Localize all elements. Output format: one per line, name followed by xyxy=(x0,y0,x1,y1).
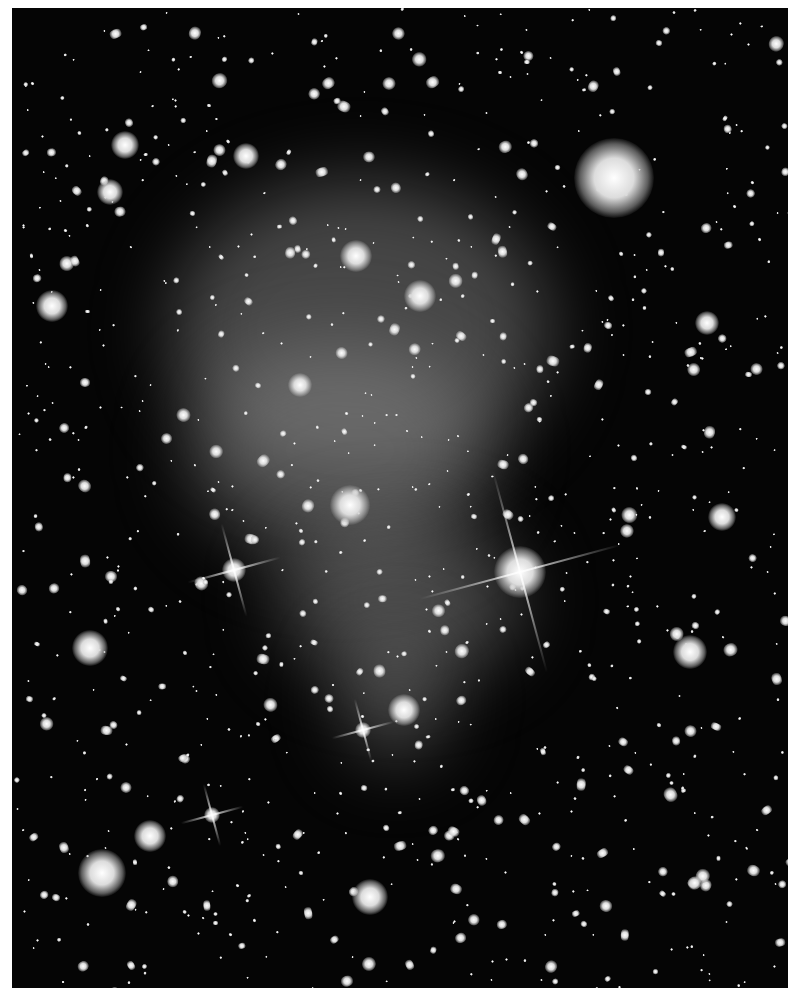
field-object xyxy=(634,751,637,754)
field-object xyxy=(74,477,93,496)
field-object xyxy=(70,572,74,576)
field-object xyxy=(652,157,657,161)
field-object xyxy=(60,981,64,984)
field-object xyxy=(568,66,575,73)
field-object xyxy=(206,717,209,720)
field-object xyxy=(546,379,551,384)
field-object xyxy=(612,65,623,78)
field-object xyxy=(38,889,51,902)
field-object xyxy=(139,22,150,31)
field-object xyxy=(615,735,630,748)
field-object xyxy=(341,761,343,764)
field-object xyxy=(99,406,102,409)
field-object xyxy=(277,859,281,863)
field-object xyxy=(236,942,247,950)
field-object xyxy=(247,56,256,65)
field-object xyxy=(690,592,697,600)
field-object xyxy=(509,76,512,78)
field-object xyxy=(114,605,121,612)
field-object xyxy=(558,586,566,593)
field-object xyxy=(136,710,142,716)
field-object xyxy=(465,903,469,907)
field-object xyxy=(76,130,82,136)
field-object xyxy=(135,908,137,911)
field-object xyxy=(499,48,504,52)
field-object xyxy=(617,522,636,541)
field-object xyxy=(776,698,779,702)
field-object xyxy=(255,653,272,666)
field-object xyxy=(585,74,588,78)
field-object xyxy=(669,781,674,785)
field-object xyxy=(49,775,53,779)
field-object xyxy=(225,138,232,145)
field-object xyxy=(128,536,133,542)
field-object xyxy=(396,273,399,276)
field-object xyxy=(776,212,778,215)
field-object xyxy=(109,986,120,988)
field-object xyxy=(411,51,428,68)
field-object xyxy=(167,143,171,147)
galaxy xyxy=(36,290,68,322)
field-object xyxy=(491,960,494,963)
field-object xyxy=(522,665,537,680)
field-object xyxy=(400,8,405,12)
field-object xyxy=(726,192,729,196)
field-object xyxy=(702,953,705,956)
field-object xyxy=(642,305,647,311)
field-object xyxy=(735,124,738,127)
field-object xyxy=(495,58,498,61)
field-object xyxy=(38,268,42,271)
galaxy xyxy=(288,373,312,397)
field-object xyxy=(127,631,129,635)
field-object xyxy=(692,8,697,12)
field-object xyxy=(391,839,409,853)
field-object xyxy=(484,790,488,793)
field-object xyxy=(576,78,579,81)
galaxy xyxy=(695,311,719,335)
field-object xyxy=(67,852,71,856)
field-object xyxy=(246,893,253,899)
field-object xyxy=(746,188,755,197)
field-object xyxy=(553,539,557,543)
field-object xyxy=(208,70,230,92)
field-object xyxy=(631,591,635,595)
field-object xyxy=(645,230,653,238)
field-object xyxy=(485,585,488,588)
field-object xyxy=(144,911,147,915)
field-object xyxy=(680,443,689,450)
field-object xyxy=(105,772,114,781)
field-object xyxy=(536,530,541,535)
field-object xyxy=(23,81,29,87)
field-object xyxy=(162,887,165,891)
field-object xyxy=(59,200,62,203)
field-object xyxy=(182,649,188,656)
field-object xyxy=(586,662,592,668)
field-object xyxy=(215,118,219,121)
field-object xyxy=(59,96,65,101)
field-object xyxy=(670,266,675,272)
field-object xyxy=(50,402,54,405)
field-object xyxy=(658,889,668,899)
field-object xyxy=(542,957,559,975)
field-object xyxy=(427,574,431,577)
galaxy xyxy=(708,503,736,531)
field-object xyxy=(23,910,26,913)
galaxy xyxy=(134,820,166,852)
field-object xyxy=(102,344,106,348)
field-object xyxy=(657,489,660,493)
field-object xyxy=(82,751,87,755)
field-object xyxy=(759,803,775,817)
field-object xyxy=(143,971,147,976)
field-object xyxy=(742,773,746,776)
field-object xyxy=(43,408,46,412)
field-object xyxy=(635,486,638,490)
field-object xyxy=(83,425,88,430)
field-object xyxy=(540,979,543,981)
field-object xyxy=(560,524,564,528)
field-object xyxy=(637,638,643,644)
field-object xyxy=(525,29,529,32)
field-object xyxy=(665,772,672,779)
field-object xyxy=(697,341,702,346)
field-object xyxy=(773,882,777,886)
field-object xyxy=(512,209,518,215)
